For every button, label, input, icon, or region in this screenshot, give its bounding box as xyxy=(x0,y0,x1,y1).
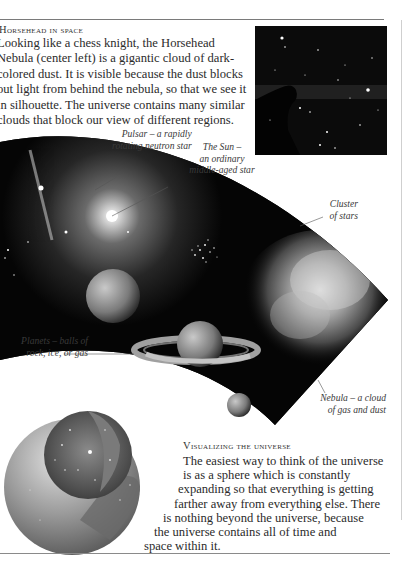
label-line: Planets – balls of xyxy=(2,335,88,347)
paragraph-line: Nebula (center left) is a gigantic cloud… xyxy=(0,51,247,66)
paragraph-line: Looking like a chess knight, the Horsehe… xyxy=(0,36,247,51)
label-line: Nebula – a cloud xyxy=(318,392,386,404)
small-moon xyxy=(227,393,251,417)
label-line: of gas and dust xyxy=(318,404,386,416)
paragraph-line: The easiest way to think of the universe xyxy=(150,454,410,468)
label-line: an ordinary xyxy=(189,153,255,165)
paragraph-line: the universe contains all of time and xyxy=(150,525,410,539)
label-line: of stars xyxy=(318,210,358,222)
sun-label: The Sun – an ordinary middle-aged star xyxy=(189,141,255,176)
label-line: middle-aged star xyxy=(189,164,255,176)
label-line: Cluster xyxy=(318,198,358,210)
label-line: rotating neutron star xyxy=(112,140,192,152)
paragraph-line: out light from behind the nebula, so tha… xyxy=(0,82,247,97)
bottom-rule xyxy=(0,553,390,554)
paragraph-line: in silhouette. The universe contains man… xyxy=(0,98,247,113)
visualizing-section-title: Visualizing the universe xyxy=(183,440,291,451)
paragraph-line: clouds that block our view of different … xyxy=(0,113,247,128)
visualizing-paragraph: The easiest way to think of the universe… xyxy=(150,454,410,553)
paragraph-line: expanding so that everything is getting xyxy=(150,482,410,496)
horsehead-nebula-photo xyxy=(255,26,387,155)
paragraph-line: is nothing beyond the universe, because xyxy=(150,511,410,525)
horsehead-section-title: Horsehead in space xyxy=(0,24,83,35)
planets-label: Planets – balls of rock, ice, or gas xyxy=(2,335,88,358)
paragraph-line: is as a sphere which is constantly xyxy=(150,468,410,482)
label-line: Pulsar – a rapidly xyxy=(112,128,192,140)
horsehead-paragraph: Looking like a chess knight, the Horsehe… xyxy=(0,36,247,128)
paragraph-line: space within it. xyxy=(144,539,410,553)
pulsar-label: Pulsar – a rapidly rotating neutron star xyxy=(112,128,192,151)
label-line: The Sun – xyxy=(189,141,255,153)
nebula-label: Nebula – a cloud of gas and dust xyxy=(318,392,386,415)
paragraph-line: farther away from everything else. There xyxy=(150,497,410,511)
universe-sphere xyxy=(4,411,140,555)
cluster-label: Cluster of stars xyxy=(318,198,358,221)
paragraph-line: colored dust. It is visible because the … xyxy=(0,67,247,82)
label-line: rock, ice, or gas xyxy=(2,347,88,359)
